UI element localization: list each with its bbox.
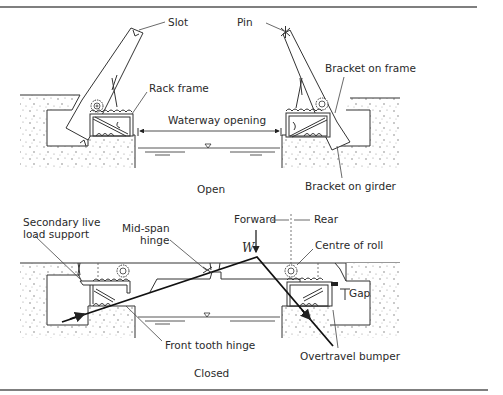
panel-open: Waterway opening Slot Pin Rack frame Bra… — [20, 16, 416, 195]
label-rack-frame: Rack frame — [149, 82, 209, 94]
label-bracket-on-girder: Bracket on girder — [305, 180, 397, 192]
label-mid-span-hinge-2: hinge — [140, 234, 169, 246]
label-waterway-opening: Waterway opening — [168, 114, 266, 126]
caption-open: Open — [197, 183, 225, 195]
label-bracket-on-frame: Bracket on frame — [325, 62, 416, 74]
label-rear: Rear — [314, 213, 339, 225]
label-mid-span-hinge: Mid-span — [122, 222, 170, 234]
label-pin: Pin — [237, 16, 253, 28]
label-overtravel-bumper: Overtravel bumper — [300, 350, 401, 362]
panel-closed: W Forward Rear Secondary live load suppo… — [20, 213, 401, 379]
bascule-bridge-diagram: Waterway opening Slot Pin Rack frame Bra… — [0, 0, 503, 395]
label-slot: Slot — [168, 16, 188, 28]
label-front-tooth-hinge: Front tooth hinge — [165, 339, 255, 351]
label-centre-of-roll: Centre of roll — [315, 239, 383, 251]
label-secondary-live-load-support-2: load support — [23, 228, 89, 240]
caption-closed: Closed — [194, 367, 229, 379]
label-secondary-live-load-support: Secondary live — [23, 216, 100, 228]
water-level-icon — [205, 144, 211, 148]
label-forward: Forward — [234, 213, 276, 225]
label-load-w: W — [242, 241, 256, 255]
label-gap: Gap — [349, 287, 371, 299]
